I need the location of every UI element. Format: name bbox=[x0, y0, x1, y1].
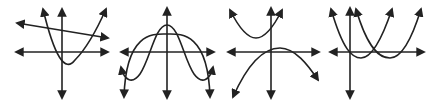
graph-1: Graph 1: a line with negative slope and … bbox=[0, 0, 110, 104]
graph-3: Graph 3: an upward-opening parabola abov… bbox=[220, 0, 330, 104]
left-parabola-curve bbox=[331, 9, 392, 58]
graph-4: Graph 4: two upward-opening parabolas, h… bbox=[328, 0, 438, 104]
graph-2: Graph 2: a downward-opening parabola and… bbox=[110, 0, 220, 104]
graph-options-row: Graph 1: a line with negative slope and … bbox=[0, 0, 438, 104]
right-parabola-curve bbox=[356, 9, 421, 58]
upward-parabola-curve bbox=[230, 10, 282, 38]
downward-parabola-curve bbox=[233, 48, 318, 97]
